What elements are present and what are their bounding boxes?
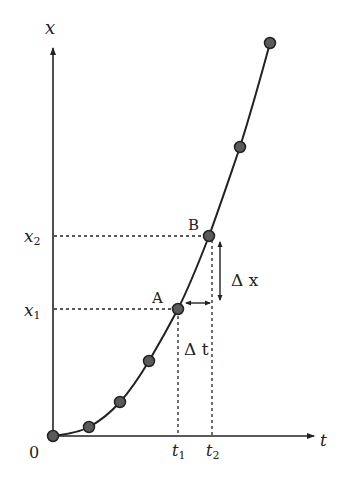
t1-label: t1 [172,441,185,462]
data-points [48,38,276,442]
x1-label: x1 [24,300,41,322]
y-axis-label: x [45,17,55,38]
point-a-label: A [151,289,163,307]
guide-lines [54,236,212,436]
delta-t-label: Δ t [184,339,209,359]
x-axis-label: t [320,430,327,450]
origin-label: 0 [29,443,39,462]
point-b-label: B [188,216,199,234]
delta-x-label: Δ x [231,270,259,290]
position-time-diagram: x t 0 A B x1 x2 t1 t2 Δ x Δ t [0,0,348,477]
x2-label: x2 [24,226,41,248]
t2-label: t2 [206,441,219,462]
position-curve [53,43,270,436]
